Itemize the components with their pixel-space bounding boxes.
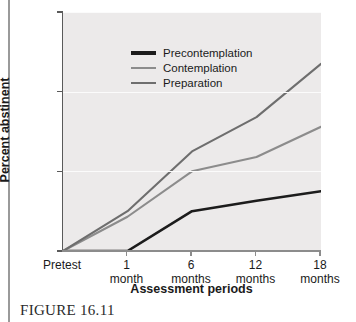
gridline-10: [63, 171, 321, 172]
x-tick-label-0: Pretest: [43, 258, 81, 272]
figure-container: Percent abstinent 0102030 Precontemplati…: [0, 0, 356, 322]
legend-item-precontemplation: Precontemplation: [131, 46, 253, 60]
legend-swatch-contemplation: [131, 67, 156, 70]
legend-swatch-precontemplation: [131, 51, 156, 54]
x-tick-3: [255, 250, 257, 256]
legend-label-preparation: Preparation: [163, 77, 222, 89]
y-tick-20: [57, 91, 63, 93]
series-line-contemplation: [63, 127, 321, 251]
legend-label-contemplation: Contemplation: [163, 62, 237, 74]
y-tick-30: [57, 11, 63, 13]
series-line-precontemplation: [63, 191, 321, 251]
y-tick-10: [57, 171, 63, 173]
x-axis-line: Pretest1month6months12months18months: [62, 250, 321, 252]
x-tick-4: [319, 250, 321, 256]
x-tick-1: [126, 250, 128, 256]
chart-legend: PrecontemplationContemplationPreparation: [131, 46, 253, 91]
legend-swatch-preparation: [131, 82, 156, 85]
figure-caption: FIGURE 16.11: [20, 302, 115, 319]
x-tick-2: [190, 250, 192, 256]
legend-item-preparation: Preparation: [131, 76, 253, 90]
x-axis-title: Assessment periods: [62, 282, 321, 296]
chart-plot-area: Percent abstinent 0102030 Precontemplati…: [62, 12, 321, 251]
legend-item-contemplation: Contemplation: [131, 61, 253, 75]
y-axis-title: Percent abstinent: [0, 78, 12, 183]
gridline-30: [63, 12, 321, 13]
gridline-20: [63, 92, 321, 93]
legend-label-precontemplation: Precontemplation: [163, 47, 253, 59]
